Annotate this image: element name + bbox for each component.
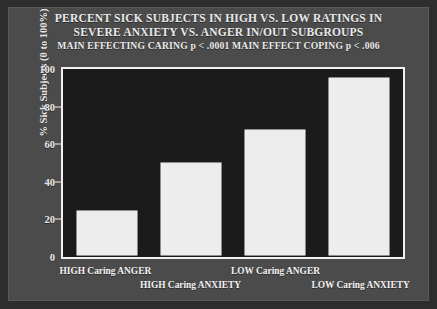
x-axis-label: HIGH Caring ANGER [60, 266, 152, 276]
y-tick-label: 20 [45, 214, 56, 225]
chart-subtitle: MAIN EFFECTING CARING p < .0001 MAIN EFF… [8, 40, 429, 52]
y-tick-label: 60 [45, 139, 56, 150]
plot-inner [65, 71, 401, 255]
bar-series [65, 71, 401, 255]
chart-title-block: PERCENT SICK SUBJECTS IN HIGH VS. LOW RA… [8, 12, 429, 52]
y-axis: % Sick Subjects (0 to 100%) 020406080100 [8, 7, 61, 259]
x-axis-label: HIGH Caring ANXIETY [140, 280, 241, 290]
chart-title-line-2: SEVERE ANXIETY VS. ANGER IN/OUT SUBGROUP… [8, 26, 429, 40]
y-tick-label: 0 [50, 252, 55, 263]
plot-frame [61, 67, 405, 259]
plot-area [61, 67, 405, 259]
y-tick-label: 80 [45, 101, 56, 112]
y-tick-label: 40 [45, 176, 56, 187]
slide-screenshot: PERCENT SICK SUBJECTS IN HIGH VS. LOW RA… [0, 0, 437, 309]
x-axis-label: LOW Caring ANGER [231, 266, 320, 276]
bar [329, 78, 388, 255]
x-axis-label: LOW Caring ANXIETY [312, 280, 410, 290]
y-tick-label: 100 [39, 64, 55, 75]
bar [245, 130, 304, 255]
bar [77, 211, 136, 255]
chart-slide: PERCENT SICK SUBJECTS IN HIGH VS. LOW RA… [8, 7, 429, 301]
bar [161, 163, 220, 255]
chart-title-line-1: PERCENT SICK SUBJECTS IN HIGH VS. LOW RA… [8, 12, 429, 26]
